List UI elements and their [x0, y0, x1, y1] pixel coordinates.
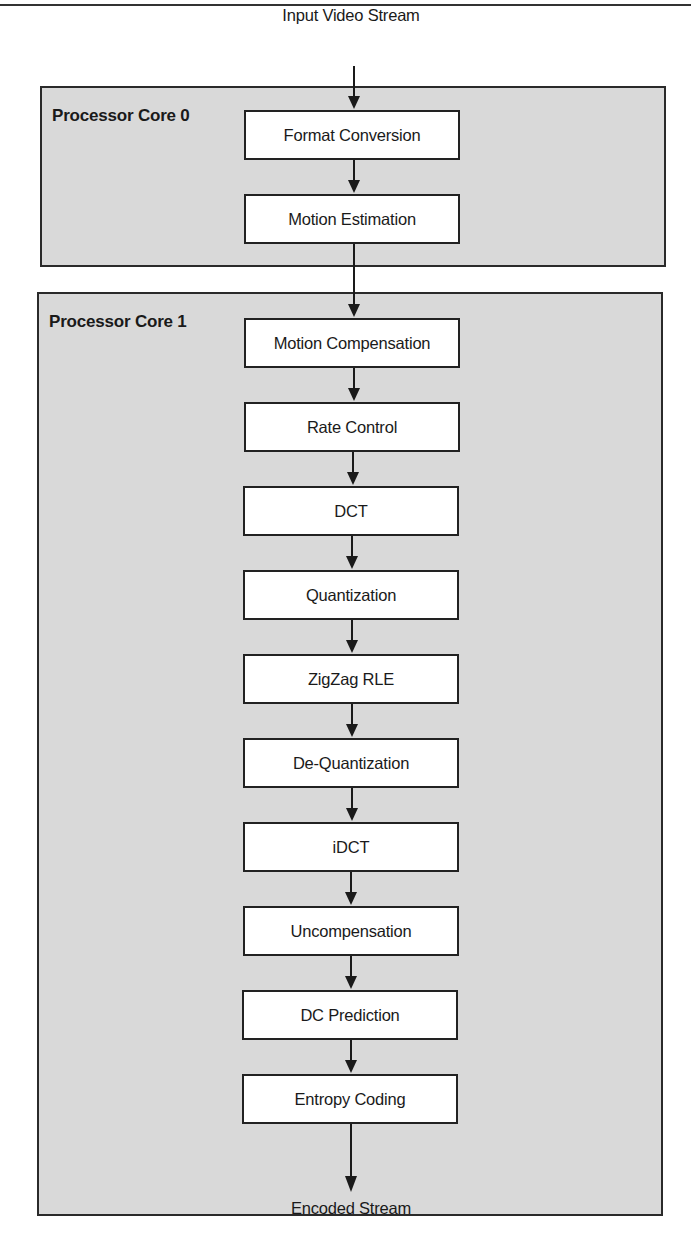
encoded-stream-label: Encoded Stream: [201, 1199, 501, 1218]
flow-arrows: [0, 0, 691, 1254]
